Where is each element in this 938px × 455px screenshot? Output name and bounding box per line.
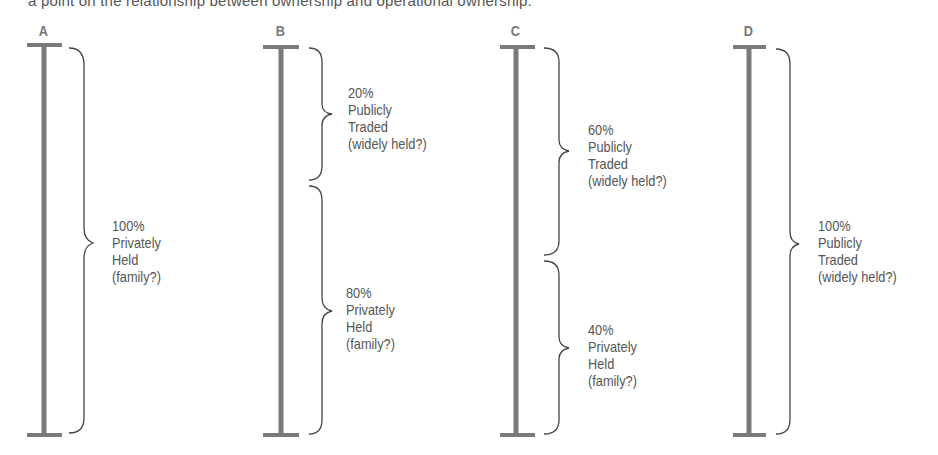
percent: 100%: [818, 218, 897, 235]
brace-a-full: [69, 48, 93, 433]
label-line: (widely held?): [588, 173, 667, 190]
segment-label-c-public: 60% Publicly Traded (widely held?): [588, 122, 667, 190]
label-line: Privately: [346, 302, 395, 319]
brace-c-bottom: [544, 261, 569, 434]
percent: 80%: [346, 285, 395, 302]
segment-label-a-private: 100% Privately Held (family?): [112, 218, 161, 286]
label-line: (widely held?): [348, 136, 427, 153]
brace-b-bottom: [309, 186, 332, 434]
brace-b-top: [309, 48, 332, 180]
percent: 40%: [588, 322, 637, 339]
brace-c-top: [544, 48, 569, 255]
bar-a: [27, 45, 62, 435]
segment-label-d-public: 100% Publicly Traded (widely held?): [818, 218, 897, 286]
segment-label-b-public: 20% Publicly Traded (widely held?): [348, 85, 427, 153]
bar-c: [500, 47, 535, 435]
percent: 100%: [112, 218, 161, 235]
label-line: Publicly: [348, 102, 427, 119]
bar-d: [733, 47, 766, 435]
column-letter-c: C: [511, 22, 520, 39]
label-line: Held: [112, 252, 161, 269]
percent: 20%: [348, 85, 427, 102]
brace-d-full: [776, 49, 799, 434]
percent: 60%: [588, 122, 667, 139]
label-line: (family?): [112, 269, 161, 286]
column-letter-d: D: [744, 22, 753, 39]
label-line: (family?): [346, 336, 395, 353]
label-line: Privately: [588, 339, 637, 356]
label-line: Publicly: [818, 235, 897, 252]
label-line: Privately: [112, 235, 161, 252]
label-line: Held: [346, 319, 395, 336]
column-letter-b: B: [276, 22, 285, 39]
segment-label-b-private: 80% Privately Held (family?): [346, 285, 395, 353]
label-line: Held: [588, 356, 637, 373]
segment-label-c-private: 40% Privately Held (family?): [588, 322, 637, 390]
label-line: Publicly: [588, 139, 667, 156]
label-line: (family?): [588, 373, 637, 390]
label-line: Traded: [818, 252, 897, 269]
label-line: (widely held?): [818, 269, 897, 286]
label-line: Traded: [348, 119, 427, 136]
label-line: Traded: [588, 156, 667, 173]
column-letter-a: A: [39, 22, 48, 39]
bar-b: [263, 47, 299, 435]
